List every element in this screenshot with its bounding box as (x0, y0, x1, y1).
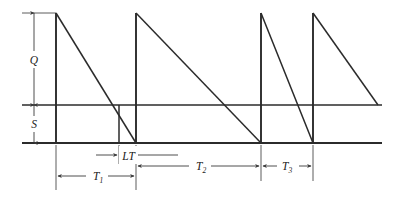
cycle2-dimension-group: T2 (138, 157, 259, 175)
quantity-label-group: Q (26, 51, 43, 68)
safety-stock-label: S (31, 118, 37, 130)
cycle3-dimension-group: T3 (263, 157, 311, 175)
cycle1-dimension-group: T1 (58, 167, 134, 185)
cycle2-label-sub: 2 (202, 166, 206, 175)
depletion-ramp-3 (261, 13, 313, 143)
quantity-label: Q (30, 54, 39, 66)
reference-lines (22, 13, 382, 143)
depletion-ramp-1 (56, 13, 136, 143)
depletion-ramp-4 (313, 13, 378, 105)
depletion-ramp-2 (136, 13, 261, 143)
inventory-waveform (56, 13, 378, 143)
diagram-canvas: Q S (0, 0, 396, 205)
safety-stock-label-group: S (26, 116, 43, 132)
lead-time-dimension-group: LT (96, 146, 178, 164)
sawtooth-inventory-diagram: Q S (0, 0, 396, 205)
lead-time-label: LT (121, 150, 136, 162)
cycle1-label-sub: 1 (99, 176, 103, 185)
cycle3-label-sub: 3 (287, 166, 292, 175)
